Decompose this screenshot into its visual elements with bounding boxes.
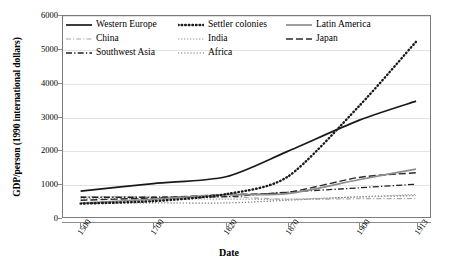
- legend-label-india: India: [208, 33, 228, 43]
- legend-swatch-japan-icon: [286, 34, 312, 43]
- legend-swatch-china-icon: [66, 34, 92, 43]
- legend-swatch-southwest-asia-icon: [66, 48, 92, 57]
- y-axis-tick-mark: [58, 83, 62, 84]
- y-axis-tick-mark: [58, 49, 62, 50]
- x-axis-tick-mark: [153, 222, 154, 227]
- legend-item-china[interactable]: China: [66, 31, 178, 45]
- y-axis-tick-label: 0: [24, 214, 58, 222]
- x-axis-tick-label: 1870: [283, 217, 301, 237]
- y-axis-tick-label: 4000: [24, 79, 58, 87]
- y-axis-tick-label: 3000: [24, 113, 58, 121]
- legend-item-western-europe[interactable]: Western Europe: [66, 17, 178, 31]
- y-axis-tick-mark: [58, 15, 62, 16]
- legend-swatch-latin-america-icon: [286, 20, 312, 29]
- x-axis-tick-label: 1900: [354, 217, 372, 237]
- x-axis-tick-label: 1820: [221, 217, 239, 237]
- y-axis-tick-label: 2000: [24, 146, 58, 154]
- legend-swatch-africa-icon: [178, 48, 204, 57]
- legend-label-china: China: [96, 33, 119, 43]
- x-axis-tick-mark: [226, 222, 227, 227]
- x-axis-tick-mark: [80, 222, 81, 227]
- legend-swatch-western-europe-icon: [66, 20, 92, 29]
- y-axis-tick-mark: [58, 150, 62, 151]
- y-axis-tick-mark: [58, 117, 62, 118]
- y-axis-title: GDP/person (1990 international dollars): [12, 12, 22, 222]
- legend-item-latin-america[interactable]: Latin America: [286, 17, 390, 31]
- y-axis-tick-label: 6000: [24, 11, 58, 19]
- legend-item-india[interactable]: India: [178, 31, 286, 45]
- legend-label-southwest-asia: Southwest Asia: [96, 47, 155, 57]
- x-axis-title: Date: [0, 247, 458, 258]
- x-axis-tick-mark: [359, 222, 360, 227]
- legend-label-africa: Africa: [208, 47, 232, 57]
- legend-swatch-india-icon: [178, 34, 204, 43]
- legend-swatch-settler-colonies-icon: [178, 20, 204, 29]
- legend-item-southwest-asia[interactable]: Southwest Asia: [66, 45, 178, 59]
- y-axis-tick-label: 1000: [24, 180, 58, 188]
- x-axis-tick-label: 1500: [75, 217, 93, 237]
- legend-item-settler-colonies[interactable]: Settler colonies: [178, 17, 286, 31]
- y-axis-tick-mark: [58, 218, 62, 219]
- chart-legend: Western EuropeSettler coloniesLatin Amer…: [66, 17, 396, 59]
- legend-label-japan: Japan: [316, 33, 338, 43]
- gdp-per-person-line-chart: GDP/person (1990 international dollars) …: [0, 0, 458, 268]
- y-axis-tick-mark: [58, 184, 62, 185]
- legend-label-settler-colonies: Settler colonies: [208, 19, 267, 29]
- legend-item-japan[interactable]: Japan: [286, 31, 390, 45]
- y-axis-tick-label: 5000: [24, 45, 58, 53]
- x-axis-tick-mark: [288, 222, 289, 227]
- legend-label-western-europe: Western Europe: [96, 19, 157, 29]
- legend-label-latin-america: Latin America: [316, 19, 371, 29]
- series-line-settler-colonies: [81, 42, 416, 204]
- x-axis-tick-mark: [417, 222, 418, 227]
- y-axis-tick-labels: 0100020003000400050006000: [24, 0, 58, 268]
- legend-item-africa[interactable]: Africa: [178, 45, 286, 59]
- x-axis-line: [62, 222, 431, 223]
- x-axis-tick-label: 1700: [148, 217, 166, 237]
- x-axis-tick-label: 1913: [412, 217, 430, 237]
